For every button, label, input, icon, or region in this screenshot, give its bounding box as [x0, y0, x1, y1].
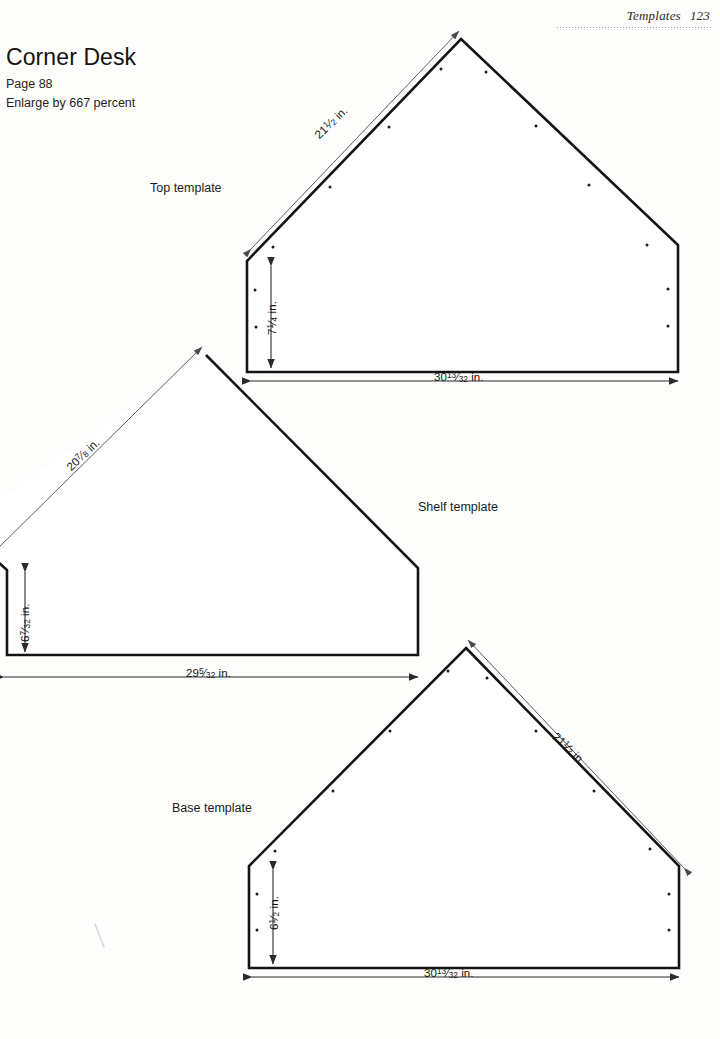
- shelf-horizontal-denominator: 32: [206, 671, 215, 680]
- top-horizontal-unit: in.: [471, 371, 483, 383]
- top-template-horizontal-label: 3013⁄32 in.: [434, 371, 484, 384]
- base-template-shape: [249, 648, 679, 968]
- base-template-vertical-label: 61⁄2 in.: [268, 896, 281, 930]
- top-horizontal-whole: 30: [434, 371, 447, 383]
- top-vertical-unit: in.: [266, 301, 278, 313]
- top-vertical-denominator: 4: [270, 317, 279, 322]
- shelf-horizontal-numerator: 5: [199, 667, 204, 676]
- base-vertical-denominator: 2: [272, 912, 281, 917]
- base-vertical-whole: 6: [268, 924, 280, 931]
- top-template-shape: [247, 39, 678, 372]
- shelf-vertical-denominator: 32: [23, 619, 32, 628]
- pencil-mark: [95, 924, 104, 947]
- base-template-horizontal-label: 3013⁄32 in.: [424, 967, 474, 980]
- base-vertical-unit: in.: [268, 896, 280, 908]
- shelf-template-horizontal-label: 295⁄32 in.: [186, 667, 231, 680]
- book-page: Templates123 Corner Desk Page 88 Enlarge…: [0, 0, 720, 1039]
- shelf-vertical-whole: 6: [19, 636, 31, 643]
- base-horizontal-unit: in.: [461, 967, 473, 979]
- shelf-horizontal-unit: in.: [219, 667, 231, 679]
- base-horizontal-numerator: 13: [437, 967, 446, 976]
- shelf-template-vertical-label: 67⁄32 in.: [19, 603, 32, 642]
- top-vertical-numerator: 1: [266, 324, 275, 329]
- shelf-horizontal-whole: 29: [186, 667, 199, 679]
- top-template-vertical-label: 71⁄4 in.: [266, 301, 279, 335]
- top-vertical-whole: 7: [266, 329, 278, 336]
- template-drawings: [0, 0, 720, 1039]
- shelf-vertical-unit: in.: [19, 603, 31, 615]
- base-horizontal-denominator: 32: [449, 971, 458, 980]
- base-horizontal-whole: 30: [424, 967, 437, 979]
- top-horizontal-numerator: 13: [447, 371, 456, 380]
- shelf-vertical-numerator: 7: [19, 631, 28, 636]
- base-vertical-numerator: 1: [268, 919, 277, 924]
- top-horizontal-denominator: 32: [459, 375, 468, 384]
- shelf-template-shape: [0, 355, 418, 655]
